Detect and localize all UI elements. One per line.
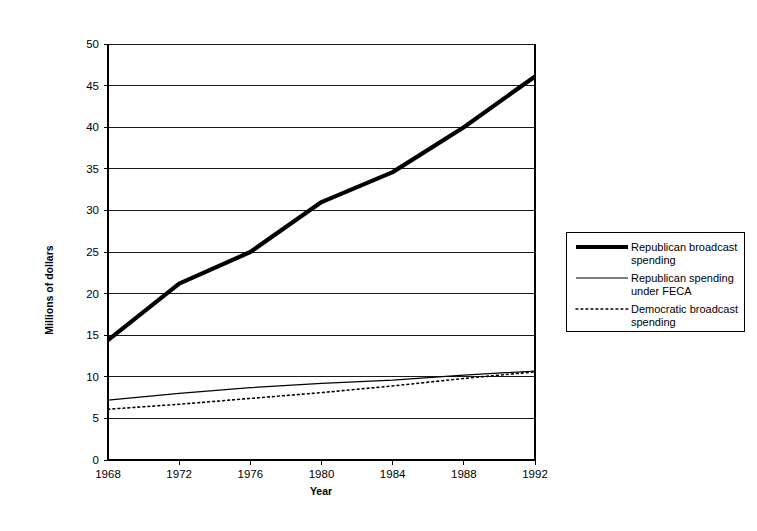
chart-canvas: 05101520253035404550 1968197219761980198… bbox=[0, 0, 757, 531]
x-axis-tick-labels: 1968197219761980198419881992 bbox=[95, 468, 548, 480]
data-series-group bbox=[108, 76, 535, 409]
y-tick-label: 40 bbox=[86, 121, 99, 133]
y-tick-label: 30 bbox=[86, 204, 99, 216]
legend-label-line2: under FECA bbox=[631, 285, 692, 297]
x-tick-label: 1984 bbox=[380, 468, 406, 480]
y-tick-label: 45 bbox=[86, 80, 99, 92]
x-tick-label: 1968 bbox=[95, 468, 121, 480]
y-tick-label: 35 bbox=[86, 163, 99, 175]
x-axis-title: Year bbox=[310, 485, 332, 497]
y-tick-label: 20 bbox=[86, 288, 99, 300]
legend-label-line1: Democratic broadcast bbox=[631, 303, 738, 315]
line-chart-figure: 05101520253035404550 1968197219761980198… bbox=[0, 0, 757, 531]
y-tick-label: 10 bbox=[86, 371, 99, 383]
legend-label-line1: Republican spending bbox=[631, 272, 734, 284]
y-axis-tick-labels: 05101520253035404550 bbox=[86, 38, 99, 466]
x-tick-label: 1992 bbox=[522, 468, 548, 480]
legend-label-line1: Republican broadcast bbox=[631, 241, 737, 253]
x-tick-label: 1980 bbox=[309, 468, 335, 480]
legend-label-line2: spending bbox=[631, 316, 676, 328]
legend-label-line2: spending bbox=[631, 254, 676, 266]
series-line bbox=[108, 372, 535, 409]
chart-legend: Republican broadcastspendingRepublican s… bbox=[566, 232, 744, 331]
x-tick-label: 1988 bbox=[451, 468, 477, 480]
y-tick-label: 5 bbox=[93, 412, 99, 424]
x-tick-label: 1976 bbox=[238, 468, 264, 480]
y-tick-label: 50 bbox=[86, 38, 99, 50]
series-line bbox=[108, 76, 535, 340]
y-axis-tick-marks bbox=[104, 44, 108, 460]
x-tick-label: 1972 bbox=[166, 468, 192, 480]
horizontal-gridlines bbox=[108, 44, 535, 418]
x-axis-tick-marks bbox=[179, 460, 535, 465]
y-tick-label: 15 bbox=[86, 329, 99, 341]
y-axis-title: Millions of dollars bbox=[43, 245, 55, 334]
series-line bbox=[108, 371, 535, 400]
y-tick-label: 0 bbox=[93, 454, 99, 466]
y-tick-label: 25 bbox=[86, 246, 99, 258]
